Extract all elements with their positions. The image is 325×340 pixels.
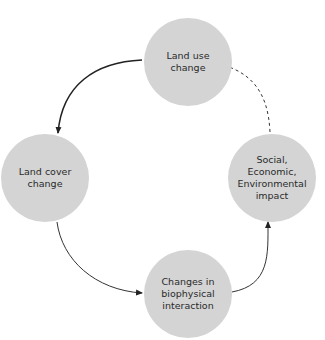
edge-land-use-to-land-cover xyxy=(58,60,142,133)
node-label: Changes in biophysical interaction xyxy=(149,276,227,312)
edge-land-cover-to-biophysical xyxy=(57,222,142,293)
node-land-use-change: Land use change xyxy=(144,18,232,106)
node-label: Land use change xyxy=(144,50,232,74)
node-biophysical-interaction: Changes in biophysical interaction xyxy=(144,250,232,338)
node-label: Land cover change xyxy=(10,166,80,190)
node-social-economic-environmental-impact: Social, Economic, Environmental impact xyxy=(228,134,316,222)
node-label: Social, Economic, Environmental impact xyxy=(228,154,316,202)
node-land-cover-change: Land cover change xyxy=(1,134,89,222)
edge-biophysical-to-impact xyxy=(232,222,268,292)
